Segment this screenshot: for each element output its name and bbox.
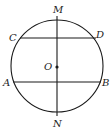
label-a: A — [2, 77, 10, 88]
circle-diagram: M C D O A B N — [0, 0, 112, 130]
center-point-o — [55, 65, 58, 68]
label-n: N — [52, 118, 63, 129]
label-b: B — [101, 77, 109, 88]
label-m: M — [52, 4, 64, 15]
label-o: O — [44, 61, 52, 72]
label-c: C — [9, 32, 17, 43]
label-d: D — [95, 29, 104, 40]
